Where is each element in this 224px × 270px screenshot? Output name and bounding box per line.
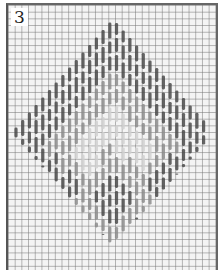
diagram-number-label: 3 [11,8,28,26]
diamond-stitch-motif [0,0,224,270]
